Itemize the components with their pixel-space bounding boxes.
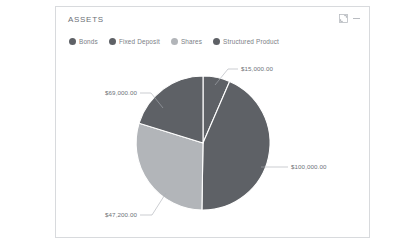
legend-item-shares[interactable]: Shares	[171, 38, 202, 45]
pie-chart-svg: $15,000.00 $100,000.00 $47,200.00 $69,00…	[56, 55, 369, 239]
legend-item-fixed-deposit[interactable]: Fixed Deposit	[109, 38, 160, 45]
data-label-bonds: $69,000.00	[105, 89, 137, 96]
chart-legend: Bonds Fixed Deposit Shares Structured Pr…	[69, 38, 279, 45]
assets-card: ASSETS Bonds	[55, 6, 370, 238]
pie-chart: $15,000.00 $100,000.00 $47,200.00 $69,00…	[56, 55, 369, 239]
page-title: ASSETS	[68, 15, 104, 24]
data-label-fixed-deposit: $15,000.00	[241, 65, 273, 72]
legend-swatch-shares	[171, 38, 178, 45]
legend-label-fixed-deposit: Fixed Deposit	[119, 38, 160, 45]
legend-label-shares: Shares	[181, 38, 202, 45]
legend-item-structured-product[interactable]: Structured Product	[213, 38, 279, 45]
data-label-structured-product: $100,000.00	[291, 163, 327, 170]
minimize-icon[interactable]	[353, 18, 360, 19]
legend-label-structured-product: Structured Product	[223, 38, 279, 45]
legend-swatch-structured-product	[213, 38, 220, 45]
pie-slices	[136, 76, 270, 210]
legend-item-bonds[interactable]: Bonds	[69, 38, 98, 45]
card-header: ASSETS	[56, 7, 369, 33]
page-root: ASSETS Bonds	[0, 0, 403, 250]
legend-swatch-fixed-deposit	[109, 38, 116, 45]
legend-label-bonds: Bonds	[79, 38, 98, 45]
expand-icon[interactable]	[339, 14, 348, 23]
legend-swatch-bonds	[69, 38, 76, 45]
header-actions	[339, 14, 360, 23]
data-label-shares: $47,200.00	[105, 211, 137, 218]
